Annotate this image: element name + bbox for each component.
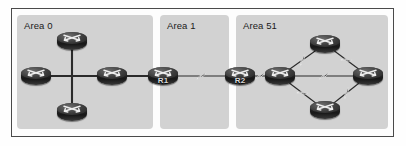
router-arrows-icon (21, 67, 51, 79)
router-label-r2: R2 (223, 76, 257, 85)
router-arrows-icon (97, 67, 127, 79)
area-label-area-51: Area 51 (243, 20, 277, 31)
router-arrows-icon (353, 67, 383, 79)
router-arrows-icon (57, 103, 87, 115)
router-arrows-icon (310, 35, 340, 47)
router-arrows-icon (265, 67, 295, 79)
network-diagram-screenshot: Area 0Area 1Area 51 R1R2 (0, 0, 406, 146)
area-label-area-1: Area 1 (167, 20, 196, 31)
router-arrows-icon (57, 32, 87, 44)
area-label-area-0: Area 0 (24, 20, 53, 31)
router-label-r1: R1 (146, 76, 180, 85)
router-arrows-icon (310, 101, 340, 113)
